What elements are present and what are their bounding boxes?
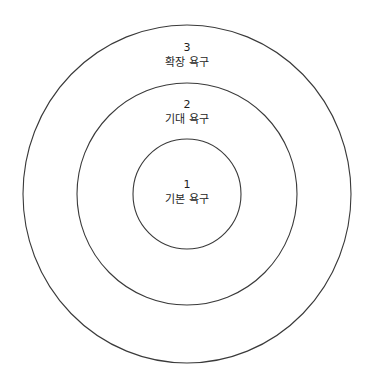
label-ring-2: 2 기대 욕구 [127,97,247,127]
ring-1-label: 기본 욕구 [127,192,247,207]
ring-2-label: 기대 욕구 [127,112,247,127]
ring-1-level: 1 [127,177,247,192]
ring-2-level: 2 [127,97,247,112]
ring-3-label: 확장 욕구 [127,55,247,70]
label-ring-1: 1 기본 욕구 [127,177,247,207]
label-ring-3: 3 확장 욕구 [127,40,247,70]
ring-3-level: 3 [127,40,247,55]
